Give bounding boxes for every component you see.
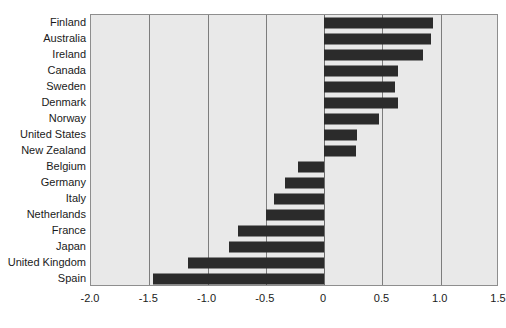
x-axis-tick-label: 0.5 [374,292,389,304]
bar [324,114,379,125]
bar-row [91,175,497,191]
bar [324,34,431,45]
y-axis-tick-label: Germany [41,177,86,188]
y-axis-tick-label: Belgium [46,161,86,172]
y-axis-tick-label: Canada [47,65,86,76]
bar-row [91,95,497,111]
y-axis-labels: FinlandAustraliaIrelandCanadaSwedenDenma… [0,14,86,286]
bar [188,258,324,269]
y-axis-tick-label: United States [20,129,86,140]
bar [238,226,324,237]
plot-area [90,14,498,286]
bar [229,242,325,253]
y-axis-tick-label: Spain [58,273,86,284]
bar [324,130,357,141]
bar-row [91,143,497,159]
bar-row [91,255,497,271]
bar [274,194,324,205]
y-axis-tick-label: Japan [56,241,86,252]
bar [324,98,397,109]
bar-row [91,239,497,255]
y-axis-tick-label: Netherlands [27,209,86,220]
y-axis-tick-label: Italy [66,193,86,204]
bar-row [91,159,497,175]
y-axis-tick-label: United Kingdom [8,257,86,268]
bar-row [91,127,497,143]
x-axis-tick-label: 1.0 [432,292,447,304]
bar [324,146,355,157]
bar [153,274,324,285]
x-axis-tick-label: -1.0 [197,292,216,304]
bar [324,18,432,29]
y-axis-tick-label: Australia [43,33,86,44]
y-axis-tick-label: New Zealand [21,145,86,156]
bar [298,162,324,173]
bar-row [91,63,497,79]
bar-row [91,79,497,95]
bar-row [91,15,497,31]
bar-rows [91,15,497,285]
y-axis-tick-label: Finland [50,17,86,28]
x-axis-tick-label: -0.5 [255,292,274,304]
x-axis-tick-label: -2.0 [81,292,100,304]
bar-row [91,111,497,127]
x-axis-labels: -2.0-1.5-1.0-0.500.51.01.5 [0,292,501,312]
bar-row [91,31,497,47]
y-axis-tick-label: Sweden [46,81,86,92]
bar-row [91,191,497,207]
bar [285,178,325,189]
bar-row [91,47,497,63]
x-axis-tick-label: 0 [320,292,326,304]
y-axis-tick-label: Denmark [41,97,86,108]
x-axis-tick-label: 1.5 [490,292,505,304]
y-axis-tick-label: Ireland [52,49,86,60]
bar [324,50,423,61]
y-axis-tick-label: France [52,225,86,236]
bar-row [91,207,497,223]
y-axis-tick-label: Norway [49,113,86,124]
bar-row [91,223,497,239]
bar-row [91,271,497,287]
bar [324,82,395,93]
bar [324,66,397,77]
bar [266,210,324,221]
x-axis-tick-label: -1.5 [139,292,158,304]
